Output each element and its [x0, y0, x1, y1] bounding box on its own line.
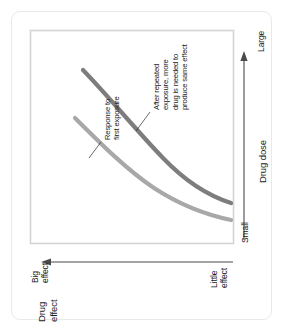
y-axis-title: Drug dose: [257, 140, 269, 183]
x-axis-tick-label-little-effect-line2: effect: [219, 268, 229, 288]
x-axis-title-line1: Drug: [36, 300, 48, 322]
annotation-first-exposure-line1: Response to: [103, 97, 112, 140]
annotation-after-repeated-exposure: After repeated exposure, more drug is ne…: [152, 44, 189, 110]
x-axis-tick-label-big-effect: Big effect: [30, 263, 51, 283]
x-axis-tick-label-little-effect-line1: Little: [209, 268, 219, 288]
annotation-after-repeated-exposure-line4: produce same effect: [180, 44, 189, 110]
x-axis-title: Drug effect: [36, 300, 59, 322]
y-axis-arrowhead-icon: [240, 51, 247, 61]
annotation-first-exposure-line2: first exposure: [112, 97, 121, 140]
y-axis-tick-label-small: Small: [240, 222, 250, 243]
x-axis-tick-label-little-effect: Little effect: [209, 268, 230, 288]
annotation-first-exposure: Response to first exposure: [103, 97, 122, 140]
annotation-after-repeated-exposure-line1: After repeated: [152, 44, 161, 110]
x-axis-tick-label-big-effect-line2: effect: [40, 263, 50, 283]
y-axis-tick-label-large: Large: [256, 31, 266, 52]
x-axis-title-line2: effect: [48, 300, 60, 322]
x-axis-tick-label-big-effect-line1: Big: [30, 263, 40, 283]
annotation-after-repeated-exposure-line2: exposure, more: [161, 44, 170, 110]
annotation-after-repeated-exposure-line3: drug is needed to: [171, 44, 180, 110]
